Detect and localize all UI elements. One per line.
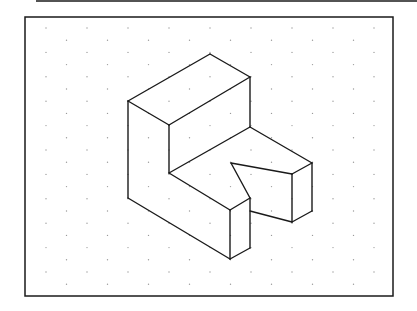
grid-dot — [127, 223, 128, 224]
grid-dot — [332, 125, 333, 126]
grid-dot — [45, 149, 46, 150]
grid-dot — [373, 149, 374, 150]
grid-dot — [353, 284, 354, 285]
grid-dot — [353, 40, 354, 41]
grid-dot — [209, 223, 210, 224]
grid-dot — [291, 27, 292, 28]
grid-dot — [291, 247, 292, 248]
grid-dot — [127, 271, 128, 272]
grid-dot — [148, 284, 149, 285]
grid-dot — [107, 210, 108, 211]
grid-dot — [250, 27, 251, 28]
grid-dot — [312, 88, 313, 89]
grid-dot — [230, 284, 231, 285]
grid-dot — [168, 52, 169, 53]
grid-dot — [271, 235, 272, 236]
grid-dot — [127, 247, 128, 248]
grid-dot — [107, 40, 108, 41]
grid-dot — [168, 27, 169, 28]
grid-dot — [353, 186, 354, 187]
grid-dot — [291, 52, 292, 53]
grid-dot — [271, 186, 272, 187]
grid-dot — [332, 223, 333, 224]
object-edge — [292, 163, 312, 174]
grid-dot — [66, 40, 67, 41]
grid-dot — [271, 210, 272, 211]
grid-dot — [86, 76, 87, 77]
grid-dot — [148, 235, 149, 236]
grid-dot — [168, 198, 169, 199]
grid-dot — [250, 52, 251, 53]
grid-dot — [189, 88, 190, 89]
grid-dot — [312, 137, 313, 138]
grid-dot — [45, 247, 46, 248]
object-edge — [250, 127, 312, 163]
grid-dot — [373, 247, 374, 248]
grid-dot — [66, 210, 67, 211]
grid-dot — [86, 247, 87, 248]
grid-dot — [66, 284, 67, 285]
grid-dot — [66, 113, 67, 114]
grid-dot — [332, 198, 333, 199]
grid-dot — [86, 52, 87, 53]
grid-dot — [107, 284, 108, 285]
grid-dot — [86, 149, 87, 150]
grid-dot — [373, 271, 374, 272]
grid-dot — [332, 174, 333, 175]
object-edge — [230, 198, 250, 210]
object-edge — [231, 163, 250, 198]
grid-dot — [148, 162, 149, 163]
grid-dot — [271, 137, 272, 138]
grid-dot — [271, 64, 272, 65]
grid-dot — [312, 40, 313, 41]
grid-dot — [66, 64, 67, 65]
grid-dot — [66, 88, 67, 89]
grid-dot — [148, 259, 149, 260]
grid-dot — [373, 76, 374, 77]
grid-dot — [209, 52, 210, 53]
grid-dot — [332, 271, 333, 272]
object-edge — [128, 101, 169, 125]
grid-dot — [373, 198, 374, 199]
grid-dot — [189, 210, 190, 211]
grid-dot — [332, 101, 333, 102]
grid-dot — [353, 162, 354, 163]
object-edge — [210, 54, 250, 77]
grid-dot — [312, 64, 313, 65]
object-edge — [169, 173, 230, 210]
grid-dot — [45, 198, 46, 199]
grid-dot — [353, 113, 354, 114]
grid-dot — [107, 137, 108, 138]
grid-dot — [353, 137, 354, 138]
grid-dot — [291, 101, 292, 102]
grid-dot — [209, 271, 210, 272]
grid-dot — [86, 174, 87, 175]
grid-dot — [353, 235, 354, 236]
grid-dot — [332, 76, 333, 77]
grid-dot — [107, 186, 108, 187]
grid-dot — [86, 125, 87, 126]
grid-dot — [168, 271, 169, 272]
grid-dot — [45, 52, 46, 53]
grid-dot — [189, 284, 190, 285]
grid-dot — [250, 149, 251, 150]
grid-dot — [271, 162, 272, 163]
grid-dot — [148, 137, 149, 138]
grid-dot — [45, 271, 46, 272]
grid-dot — [353, 259, 354, 260]
grid-dot — [230, 186, 231, 187]
grid-dot — [209, 125, 210, 126]
grid-dot — [250, 174, 251, 175]
grid-dot — [353, 210, 354, 211]
grid-dot — [332, 27, 333, 28]
grid-dot — [373, 223, 374, 224]
grid-dot — [271, 88, 272, 89]
grid-dot — [86, 271, 87, 272]
grid-dot — [127, 52, 128, 53]
grid-dot — [66, 137, 67, 138]
grid-dot — [353, 64, 354, 65]
isometric-object — [128, 54, 312, 259]
grid-dot — [107, 162, 108, 163]
grid-dot — [127, 27, 128, 28]
grid-dot — [148, 40, 149, 41]
